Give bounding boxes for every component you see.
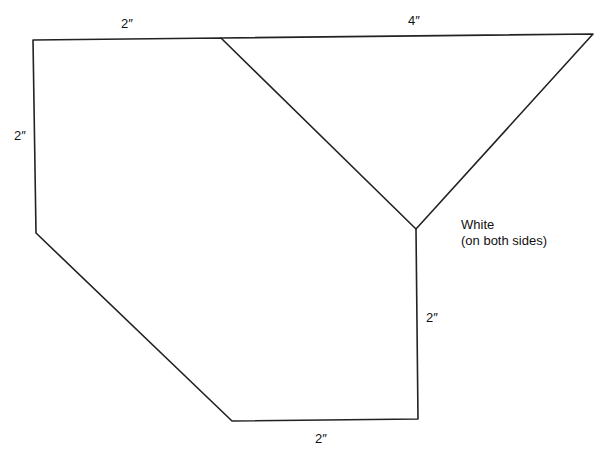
top-left-dimension-label: 2″ — [121, 16, 133, 31]
top-right-dimension-label: 4″ — [408, 13, 420, 28]
right-dimension-label: 2″ — [426, 310, 438, 325]
pattern-diagram — [0, 0, 606, 461]
bottom-dimension-label: 2″ — [315, 431, 327, 446]
hexagon-panel-outline — [33, 38, 418, 421]
note-both-sides-label: (on both sides) — [461, 233, 547, 248]
triangle-panel-outline — [221, 34, 593, 229]
left-dimension-label: 2″ — [14, 128, 26, 143]
note-white-label: White — [461, 217, 494, 232]
